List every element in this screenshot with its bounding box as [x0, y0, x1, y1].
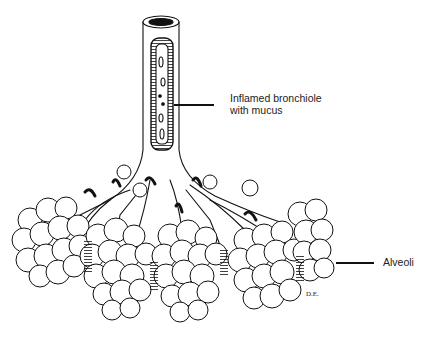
alveoli-leader-line	[336, 262, 374, 264]
alveoli-label: Alveoli	[383, 256, 414, 268]
bronchiole-label: Inflamed bronchiole with mucus	[230, 92, 322, 116]
bronchiole-label-line2: with mucus	[230, 104, 322, 116]
artist-signature: D.E.	[306, 288, 319, 300]
bronchiole-leader-line	[174, 104, 214, 106]
bronchiole-alveoli-illustration	[0, 0, 427, 344]
bronchiole-label-line1: Inflamed bronchiole	[230, 92, 322, 104]
